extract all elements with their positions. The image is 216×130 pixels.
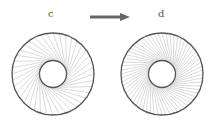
inner-circle xyxy=(149,61,176,88)
annulus-diagram-c xyxy=(12,33,94,115)
arrow-right-icon xyxy=(90,13,130,21)
annulus-diagram-d xyxy=(121,33,203,115)
diagram-canvas xyxy=(0,0,216,130)
inner-circle xyxy=(40,61,67,88)
